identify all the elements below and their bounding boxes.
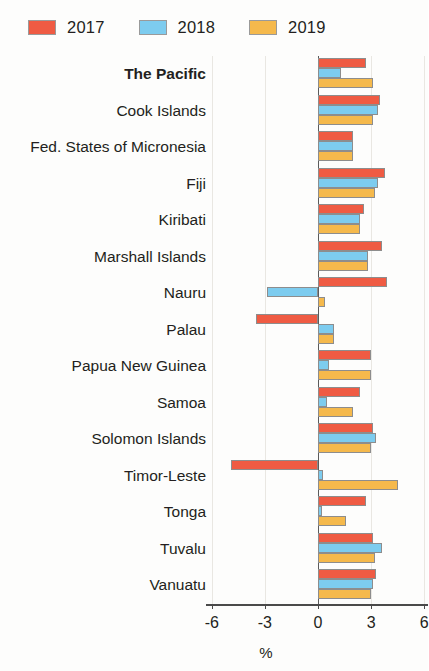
legend-label-2017: 2017	[67, 18, 105, 37]
bar-2017	[318, 533, 373, 543]
bar-group	[206, 496, 428, 528]
bar-group	[206, 314, 428, 346]
bar-2018	[267, 287, 318, 297]
chart-legend: 201720182019	[0, 0, 428, 54]
tick-label--3: -3	[258, 614, 272, 632]
bar-2019	[318, 151, 353, 161]
legend-swatch-2019	[249, 20, 277, 35]
bar-group	[206, 131, 428, 163]
bar-2017	[318, 95, 380, 105]
category-label: Timor-Leste	[124, 458, 206, 495]
bar-2019	[318, 407, 353, 417]
category-label: Nauru	[164, 275, 206, 312]
bar-group	[206, 58, 428, 90]
bar-2019	[318, 78, 373, 88]
bar-group	[206, 569, 428, 601]
bar-2017	[318, 350, 371, 360]
bar-2019	[318, 188, 375, 198]
bar-2017	[318, 241, 382, 251]
bar-2017	[318, 168, 385, 178]
tick-label-6: 6	[420, 614, 429, 632]
bar-2019	[318, 443, 371, 453]
chart-row: Nauru	[0, 275, 428, 312]
bar-2017	[318, 277, 387, 287]
bar-2017	[318, 204, 364, 214]
bar-2018	[318, 543, 382, 553]
bar-2017	[318, 131, 353, 141]
category-label: Kiribati	[159, 202, 206, 239]
chart-row: Solomon Islands	[0, 421, 428, 458]
bar-2018	[318, 141, 353, 151]
axis-title-label: %	[259, 644, 272, 661]
chart-row: Tuvalu	[0, 531, 428, 568]
bar-2019	[318, 297, 325, 307]
category-label: Palau	[166, 312, 206, 349]
bar-2018	[318, 324, 334, 334]
bar-2018	[318, 579, 373, 589]
bar-2019	[318, 115, 373, 125]
bar-2018	[318, 68, 341, 78]
legend-label-2018: 2018	[178, 18, 216, 37]
bar-2017	[231, 460, 318, 470]
chart-row: Fed. States of Micronesia	[0, 129, 428, 166]
bar-2017	[318, 387, 360, 397]
bar-group	[206, 204, 428, 236]
axis-line	[206, 604, 428, 606]
category-label: Tonga	[164, 494, 206, 531]
category-label: Tuvalu	[160, 531, 206, 568]
bar-2017	[256, 314, 318, 324]
tick-mark-6	[424, 604, 425, 609]
legend-item-2018: 2018	[139, 18, 216, 37]
plot-area: The PacificCook IslandsFed. States of Mi…	[0, 56, 428, 611]
chart-row: Timor-Leste	[0, 458, 428, 495]
tick-mark-0	[318, 604, 319, 609]
x-axis: % -6-3036	[0, 604, 428, 671]
bar-2017	[318, 569, 376, 579]
tick-label--6: -6	[205, 614, 219, 632]
bar-2019	[318, 261, 368, 271]
legend-item-2017: 2017	[28, 18, 105, 37]
legend-item-2019: 2019	[249, 18, 326, 37]
bar-group	[206, 95, 428, 127]
bar-group	[206, 533, 428, 565]
bar-2018	[318, 251, 368, 261]
legend-swatch-2018	[139, 20, 167, 35]
bar-2019	[318, 553, 375, 563]
bar-group	[206, 350, 428, 382]
bar-2018	[318, 360, 329, 370]
bar-2018	[318, 506, 322, 516]
bar-group	[206, 168, 428, 200]
chart-row: Papua New Guinea	[0, 348, 428, 385]
tick-label-0: 0	[314, 614, 323, 632]
chart-row: Palau	[0, 312, 428, 349]
category-label: Solomon Islands	[91, 421, 206, 458]
tick-mark--3	[265, 604, 266, 609]
chart-row: Samoa	[0, 385, 428, 422]
category-label: Marshall Islands	[94, 239, 206, 276]
category-label: Fiji	[186, 166, 206, 203]
bar-2019	[318, 370, 371, 380]
bar-2019	[318, 516, 346, 526]
chart-row: Vanuatu	[0, 567, 428, 604]
bar-group	[206, 460, 428, 492]
legend-swatch-2017	[28, 20, 56, 35]
tick-mark--6	[212, 604, 213, 609]
bar-2019	[318, 589, 371, 599]
category-label: Papua New Guinea	[72, 348, 206, 385]
bar-2018	[318, 397, 327, 407]
bar-2017	[318, 58, 366, 68]
tick-label-3: 3	[367, 614, 376, 632]
legend-label-2019: 2019	[288, 18, 326, 37]
bar-group	[206, 387, 428, 419]
bar-group	[206, 241, 428, 273]
chart-row: Cook Islands	[0, 93, 428, 130]
bar-2019	[318, 480, 398, 490]
bar-group	[206, 423, 428, 455]
bar-group	[206, 277, 428, 309]
chart-row: Marshall Islands	[0, 239, 428, 276]
category-label: Fed. States of Micronesia	[30, 129, 206, 166]
chart-row: Fiji	[0, 166, 428, 203]
bar-2018	[318, 105, 378, 115]
category-label: The Pacific	[124, 56, 206, 93]
